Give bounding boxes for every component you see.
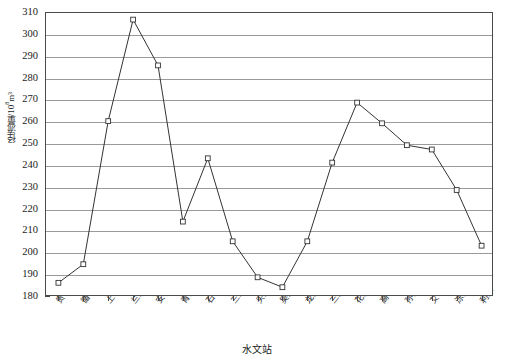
data-point-marker xyxy=(280,285,285,290)
y-axis-tick-label: 290 xyxy=(0,51,38,61)
data-point-marker xyxy=(81,262,86,267)
data-point-marker xyxy=(355,100,360,105)
y-axis-tick-label: 280 xyxy=(0,73,38,83)
y-axis-tick-label: 260 xyxy=(0,116,38,126)
data-point-marker xyxy=(181,219,186,224)
data-point-marker xyxy=(429,147,434,152)
data-point-marker xyxy=(305,239,310,244)
data-point-marker xyxy=(205,156,210,161)
y-axis-tick-label: 180 xyxy=(0,291,38,301)
y-axis-tick-label: 310 xyxy=(0,7,38,17)
y-axis-tick-label: 210 xyxy=(0,225,38,235)
data-point-marker xyxy=(380,121,385,126)
data-point-marker xyxy=(131,17,136,22)
data-point-marker xyxy=(56,280,61,285)
runoff-line-series xyxy=(46,13,494,297)
series-polyline xyxy=(58,20,481,288)
plot-area xyxy=(45,12,493,296)
y-axis-tick-label: 300 xyxy=(0,29,38,39)
data-point-marker xyxy=(230,239,235,244)
y-axis-tick-label: 220 xyxy=(0,204,38,214)
series-markers xyxy=(56,17,484,289)
x-axis-title: 水文站 xyxy=(242,341,272,356)
y-axis-tick-label: 190 xyxy=(0,269,38,279)
data-point-marker xyxy=(330,160,335,165)
data-point-marker xyxy=(479,243,484,248)
y-axis-tick-label: 250 xyxy=(0,138,38,148)
y-axis-tick-label: 230 xyxy=(0,182,38,192)
chart-figure: 径流量/108m³ 310300290280270260250240230220… xyxy=(0,0,516,362)
data-point-marker xyxy=(454,188,459,193)
y-axis-tick-label: 270 xyxy=(0,94,38,104)
data-point-marker xyxy=(255,275,260,280)
y-axis-tick-label: 240 xyxy=(0,160,38,170)
data-point-marker xyxy=(156,63,161,68)
y-axis-tick-label: 200 xyxy=(0,247,38,257)
data-point-marker xyxy=(106,119,111,124)
data-point-marker xyxy=(405,143,410,148)
